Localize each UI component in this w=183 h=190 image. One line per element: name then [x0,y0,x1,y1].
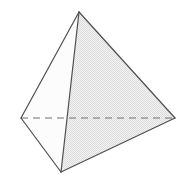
tetrahedron-diagram [0,0,183,190]
face-right [61,12,175,172]
figure-container [0,0,183,190]
